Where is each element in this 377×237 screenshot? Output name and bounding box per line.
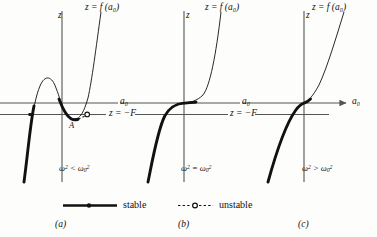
panel-a-group	[0, 11, 118, 182]
panel-a-curve-label: z = f (a₀)	[85, 3, 119, 13]
panel-b-condition-rhs-exp: 2	[209, 164, 212, 170]
panel-a-condition: ω2<ω02	[59, 164, 89, 174]
panel-a-unstable-point	[85, 112, 90, 117]
panel-a-label: (a)	[55, 220, 66, 230]
legend-stable-label: stable	[123, 200, 146, 210]
panel-a-stable-branch-1	[24, 106, 34, 182]
legend-stable-dot	[87, 203, 91, 207]
figure-root: z z = f (a₀) a₀ z = −F A ω2<ω02 (a) z z …	[0, 0, 377, 237]
panel-b-curve-label: z = f (a₀)	[205, 3, 239, 13]
panel-c-y-axis-label: z	[306, 11, 310, 21]
panel-c-x-axis-label: a₀	[352, 97, 360, 107]
panel-b-y-axis-label: z	[186, 11, 190, 21]
figure-canvas	[0, 0, 377, 237]
panel-c-curve-label-text: z = f (a₀)	[312, 2, 346, 12]
panel-a-level-line-label-text: z = −F	[109, 108, 136, 118]
panel-c-condition-rel: >	[311, 163, 321, 173]
panel-b-x-axis-label: a₀	[242, 97, 250, 107]
panel-c-condition: ω2>ω02	[302, 164, 332, 174]
panel-c-condition-rhs-exp: 2	[330, 164, 333, 170]
panel-a-y-axis-label: z	[58, 11, 62, 21]
panel-a-point-label: A	[69, 121, 74, 130]
legend-unstable-circle	[193, 203, 198, 208]
panel-b-curve-label-text: z = f (a₀)	[205, 2, 239, 12]
panel-c-group	[242, 11, 346, 182]
panel-a-x-axis-label: a₀	[120, 97, 128, 107]
panel-a-condition-rhs-exp: 2	[87, 164, 90, 170]
panel-a-level-line-label: z = −F	[109, 109, 136, 119]
panel-b-group	[120, 11, 240, 182]
panel-b-condition: ω2=ω02	[181, 164, 211, 174]
panel-c-curve-label: z = f (a₀)	[312, 3, 346, 13]
panel-c-curve	[268, 12, 344, 182]
panel-b-label: (b)	[178, 220, 189, 230]
panel-b-level-line-label-text: z = −F	[230, 108, 257, 118]
panel-c-label: (c)	[298, 220, 309, 230]
panel-a-condition-rel: <	[68, 163, 78, 173]
legend-unstable-label: unstable	[219, 200, 252, 210]
panel-b-level-line-label: z = −F	[230, 109, 257, 119]
panel-b-condition-rel: =	[190, 163, 200, 173]
panel-a-curve-label-text: z = f (a₀)	[85, 2, 119, 12]
